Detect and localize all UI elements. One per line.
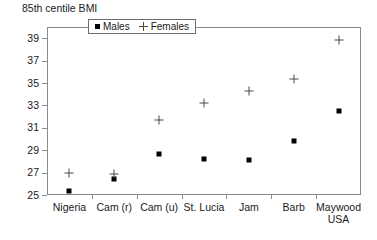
- data-point-male: [202, 157, 207, 162]
- x-tick-label-line: Cam (r): [96, 201, 132, 213]
- x-tick-label: MaywoodUSA: [316, 201, 361, 225]
- plot-area: [47, 27, 361, 195]
- x-tick-label: Barb: [283, 201, 305, 213]
- y-tick-label: 37: [15, 55, 39, 66]
- data-point-female: [65, 168, 74, 177]
- x-tick-mark: [226, 195, 227, 199]
- data-point-female: [244, 86, 253, 95]
- legend-label-males: Males: [103, 21, 130, 32]
- y-tick-label: 33: [15, 100, 39, 111]
- x-tick-label: Nigeria: [53, 201, 86, 213]
- y-tick-mark: [42, 195, 47, 196]
- data-point-female: [200, 99, 209, 108]
- bmi-scatter-chart: 85th centile BMI 2527293133353739 Nigeri…: [0, 0, 377, 240]
- x-tick-label: Cam (u): [140, 201, 178, 213]
- data-point-male: [67, 188, 72, 193]
- legend-entry-females: Females: [139, 21, 189, 32]
- y-tick-label: 27: [15, 167, 39, 178]
- y-tick-label: 39: [15, 33, 39, 44]
- y-tick-label: 31: [15, 122, 39, 133]
- x-tick-mark: [271, 195, 272, 199]
- chart-legend: Males Females: [88, 19, 196, 34]
- y-tick-label: 29: [15, 145, 39, 156]
- data-point-male: [157, 151, 162, 156]
- data-point-female: [334, 36, 343, 45]
- y-tick-label: 35: [15, 78, 39, 89]
- data-point-male: [336, 109, 341, 114]
- legend-entry-males: Males: [95, 21, 130, 32]
- x-tick-label-line: USA: [316, 213, 361, 225]
- data-point-male: [291, 139, 296, 144]
- data-point-female: [155, 115, 164, 124]
- x-tick-mark: [137, 195, 138, 199]
- plus-icon: [139, 22, 148, 31]
- x-tick-label-line: Barb: [283, 201, 305, 213]
- x-tick-label-line: Maywood: [316, 201, 361, 213]
- x-tick-label-line: Cam (u): [140, 201, 178, 213]
- x-tick-label: Cam (r): [96, 201, 132, 213]
- x-tick-label: St. Lucia: [184, 201, 225, 213]
- x-tick-mark: [182, 195, 183, 199]
- data-point-female: [110, 169, 119, 178]
- x-tick-label: Jam: [239, 201, 259, 213]
- x-tick-label-line: St. Lucia: [184, 201, 225, 213]
- data-point-male: [246, 158, 251, 163]
- x-tick-mark: [92, 195, 93, 199]
- data-point-female: [289, 74, 298, 83]
- x-tick-mark: [316, 195, 317, 199]
- filled-square-icon: [95, 24, 100, 29]
- chart-title: 85th centile BMI: [22, 2, 97, 15]
- x-tick-label-line: Nigeria: [53, 201, 86, 213]
- legend-label-females: Females: [151, 21, 189, 32]
- x-tick-label-line: Jam: [239, 201, 259, 213]
- y-tick-label: 25: [15, 190, 39, 201]
